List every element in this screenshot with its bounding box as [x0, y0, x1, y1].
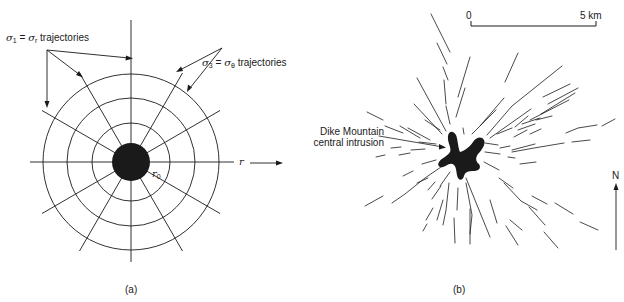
equals: = [213, 57, 224, 68]
arrowhead [187, 85, 192, 93]
arrowhead [76, 71, 83, 78]
sigma-symbol: σ [6, 32, 13, 43]
intrusion-leader-line [379, 136, 443, 147]
equals: = [17, 32, 28, 43]
sigma3-trajectories-label: σ3 = σθ trajectories [202, 57, 287, 71]
arrowhead [45, 101, 50, 108]
core-radius-label: r0 [152, 168, 161, 182]
dike-traces [365, 14, 615, 248]
scale-bar-end-label: 5 km [580, 10, 602, 21]
intrusion-label-line2: central intrusion [312, 137, 384, 148]
central-intrusion-shape [438, 132, 484, 180]
panel-b-caption: (b) [453, 284, 465, 295]
radial-dike-map [300, 0, 624, 302]
arrowhead [126, 56, 134, 61]
central-hole-core [112, 143, 150, 181]
r-axis-arrowhead [276, 161, 283, 166]
sigma-symbol: σ [28, 32, 35, 43]
r-axis-label: r [239, 156, 244, 167]
scale-bar-start-label: 0 [466, 10, 472, 21]
label-text: trajectories [235, 57, 287, 68]
sigma-symbol: σ [224, 57, 231, 68]
intrusion-label-line1: Dike Mountain [312, 126, 384, 137]
panel-b-dike-map: 0 5 km Dike Mountain central intrusion N… [300, 0, 624, 302]
arrowhead [176, 67, 183, 73]
subscript: 0 [157, 173, 161, 180]
sigma-symbol: σ [202, 57, 209, 68]
scale-bar [471, 21, 596, 26]
north-arrow [614, 183, 619, 250]
intrusion-label: Dike Mountain central intrusion [312, 126, 384, 148]
north-label: N [612, 170, 619, 181]
sigma1-trajectories-label: σ1 = σr trajectories [6, 32, 89, 46]
panel-a-caption: (a) [125, 284, 137, 295]
label-text: trajectories [37, 32, 89, 43]
leader-arrowhead [439, 144, 446, 150]
panel-a-stress-trajectories: σ1 = σr trajectories σ3 = σθ trajectorie… [0, 0, 300, 302]
